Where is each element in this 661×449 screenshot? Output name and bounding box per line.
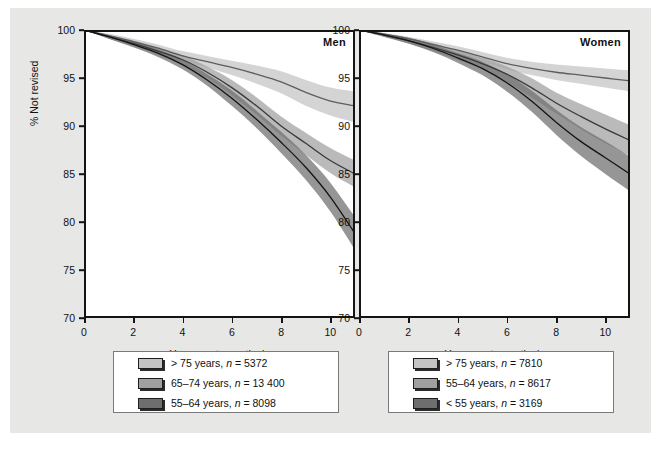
y-tick-label: 95	[310, 72, 350, 84]
x-tick-mark	[556, 318, 558, 323]
y-tick-label: 80	[310, 216, 350, 228]
y-tick-label: 85	[35, 168, 75, 180]
legend-label: 65–74 years, n = 13 400	[171, 377, 285, 389]
y-tick-label: 95	[35, 72, 75, 84]
x-tick-mark	[84, 318, 86, 323]
figure-canvas: % Not revised Men 100959085807570 024681…	[10, 8, 651, 433]
y-tick-mark	[354, 125, 359, 127]
y-tick-label: 100	[35, 24, 75, 36]
chart-panel-women: Women 100959085807570 0246810 Years post…	[359, 30, 630, 318]
y-tick-label: 100	[310, 24, 350, 36]
x-tick-mark	[408, 318, 410, 323]
y-tick-mark	[354, 221, 359, 223]
x-tick-label: 4	[168, 326, 198, 338]
y-tick-label: 90	[35, 120, 75, 132]
y-tick-mark	[354, 29, 359, 31]
x-tick-mark	[359, 318, 361, 323]
legend-swatch-icon	[413, 378, 438, 389]
x-tick-mark	[507, 318, 509, 323]
y-tick-mark	[79, 269, 84, 271]
legend-item: 55–64 years, n = 8098	[138, 394, 338, 412]
y-tick-mark	[79, 221, 84, 223]
y-tick-mark	[354, 269, 359, 271]
legend-swatch-icon	[138, 358, 163, 369]
legend-label: > 75 years, n = 7810	[446, 357, 542, 369]
y-tick-label: 70	[35, 312, 75, 324]
x-tick-mark	[232, 318, 234, 323]
y-tick-mark	[354, 173, 359, 175]
legend-item: < 55 years, n = 3169	[413, 394, 613, 412]
y-axis-label: % Not revised	[28, 61, 40, 126]
x-tick-label: 10	[315, 326, 345, 338]
legend-swatch-icon	[138, 378, 163, 389]
y-tick-mark	[79, 173, 84, 175]
x-tick-label: 0	[69, 326, 99, 338]
y-tick-label: 70	[310, 312, 350, 324]
panel-title-women: Women	[580, 36, 621, 48]
legend-swatch-icon	[413, 358, 438, 369]
y-tick-label: 75	[310, 264, 350, 276]
legend-item: > 75 years, n = 7810	[413, 354, 613, 372]
legend-label: < 55 years, n = 3169	[446, 397, 542, 409]
legend-item: 55–64 years, n = 8617	[413, 374, 613, 392]
y-tick-label: 85	[310, 168, 350, 180]
y-tick-mark	[79, 29, 84, 31]
x-tick-label: 0	[344, 326, 374, 338]
y-tick-label: 90	[310, 120, 350, 132]
legend-swatch-icon	[413, 398, 438, 409]
y-tick-mark	[79, 125, 84, 127]
x-tick-label: 4	[443, 326, 473, 338]
x-tick-label: 6	[217, 326, 247, 338]
legend-item: > 75 years, n = 5372	[138, 354, 338, 372]
x-tick-mark	[133, 318, 135, 323]
plot-curves-women	[359, 30, 630, 318]
legend-label: > 75 years, n = 5372	[171, 357, 267, 369]
x-tick-mark	[183, 318, 185, 323]
x-tick-label: 2	[118, 326, 148, 338]
x-tick-label: 8	[266, 326, 296, 338]
x-tick-label: 10	[590, 326, 620, 338]
y-tick-mark	[354, 77, 359, 79]
y-tick-mark	[79, 77, 84, 79]
legend-swatch-icon	[138, 398, 163, 409]
legend-label: 55–64 years, n = 8617	[446, 377, 551, 389]
x-tick-label: 6	[492, 326, 522, 338]
panel-title-men: Men	[323, 36, 346, 48]
legend-item: 65–74 years, n = 13 400	[138, 374, 338, 392]
x-tick-mark	[605, 318, 607, 323]
legend-label: 55–64 years, n = 8098	[171, 397, 276, 409]
x-tick-mark	[281, 318, 283, 323]
x-tick-label: 2	[393, 326, 423, 338]
y-tick-label: 75	[35, 264, 75, 276]
y-tick-label: 80	[35, 216, 75, 228]
x-tick-label: 8	[541, 326, 571, 338]
legend-women: > 75 years, n = 781055–64 years, n = 861…	[388, 351, 614, 413]
legend-men: > 75 years, n = 537265–74 years, n = 13 …	[113, 351, 339, 413]
x-tick-mark	[458, 318, 460, 323]
